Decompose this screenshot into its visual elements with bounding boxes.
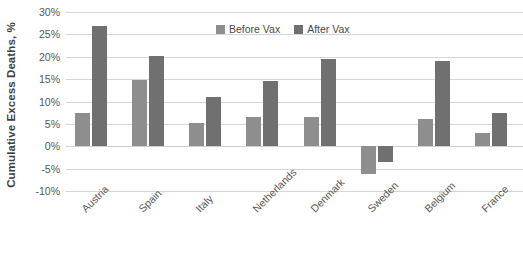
bar-before-vax[interactable] <box>246 117 261 147</box>
legend-item-before-vax[interactable]: Before Vax <box>216 23 280 35</box>
bar-after-vax[interactable] <box>378 146 393 162</box>
y-tick-label: 25% <box>39 28 60 40</box>
y-tick-label: 20% <box>39 51 60 63</box>
bar-after-vax[interactable] <box>149 56 164 146</box>
legend-label: Before Vax <box>229 23 280 35</box>
y-tick-label: 5% <box>45 118 60 130</box>
y-tick-label: 30% <box>39 6 60 18</box>
y-axis-title: Cumulative Excess Deaths, % <box>0 0 22 210</box>
bar-before-vax[interactable] <box>75 113 90 146</box>
y-tick-label: -5% <box>41 163 60 175</box>
y-axis-title-text: Cumulative Excess Deaths, % <box>5 22 17 188</box>
legend-swatch-icon <box>294 25 303 34</box>
y-tick-label: 0% <box>45 140 60 152</box>
y-tick-label: 15% <box>39 73 60 85</box>
y-axis-tick-labels: 30%25%20%15%10%5%0%-5%-10% <box>22 0 64 200</box>
bar-group <box>466 0 523 200</box>
bar-before-vax[interactable] <box>361 146 376 173</box>
bar-before-vax[interactable] <box>189 123 204 147</box>
legend-item-after-vax[interactable]: After Vax <box>294 23 349 35</box>
bar-after-vax[interactable] <box>321 59 336 147</box>
y-tick-label: 10% <box>39 96 60 108</box>
bar-group <box>409 0 466 200</box>
bar-group <box>352 0 409 200</box>
bar-before-vax[interactable] <box>475 133 490 146</box>
bar-before-vax[interactable] <box>304 117 319 146</box>
bar-after-vax[interactable] <box>492 113 507 146</box>
excess-deaths-bar-chart: Cumulative Excess Deaths, % 30%25%20%15%… <box>0 0 523 258</box>
chart-legend: Before VaxAfter Vax <box>216 23 350 35</box>
y-tick-label: -10% <box>35 185 60 197</box>
legend-label: After Vax <box>307 23 349 35</box>
bar-before-vax[interactable] <box>418 119 433 146</box>
x-axis-category-labels: AustriaSpainItalyNetherlandsDenmarkSwede… <box>66 200 523 258</box>
bar-before-vax[interactable] <box>132 80 147 146</box>
bar-after-vax[interactable] <box>206 97 221 147</box>
bar-group <box>66 0 123 200</box>
bar-group <box>123 0 180 200</box>
legend-swatch-icon <box>216 25 225 34</box>
bar-after-vax[interactable] <box>263 81 278 146</box>
bar-after-vax[interactable] <box>92 26 107 146</box>
bar-after-vax[interactable] <box>435 61 450 146</box>
